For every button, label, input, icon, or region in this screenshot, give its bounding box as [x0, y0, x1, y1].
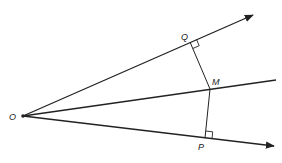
- lower-ray: [23, 116, 274, 146]
- upper-ray: [23, 15, 253, 116]
- label-o: O: [9, 112, 16, 122]
- vertex-o-dot: [21, 114, 25, 118]
- label-p: P: [198, 142, 204, 152]
- label-q: Q: [181, 32, 188, 42]
- bisector-line: [23, 80, 276, 116]
- label-m: M: [212, 77, 220, 87]
- geometry-diagram: O Q M P: [0, 0, 282, 163]
- segment-mq: [190, 42, 210, 89]
